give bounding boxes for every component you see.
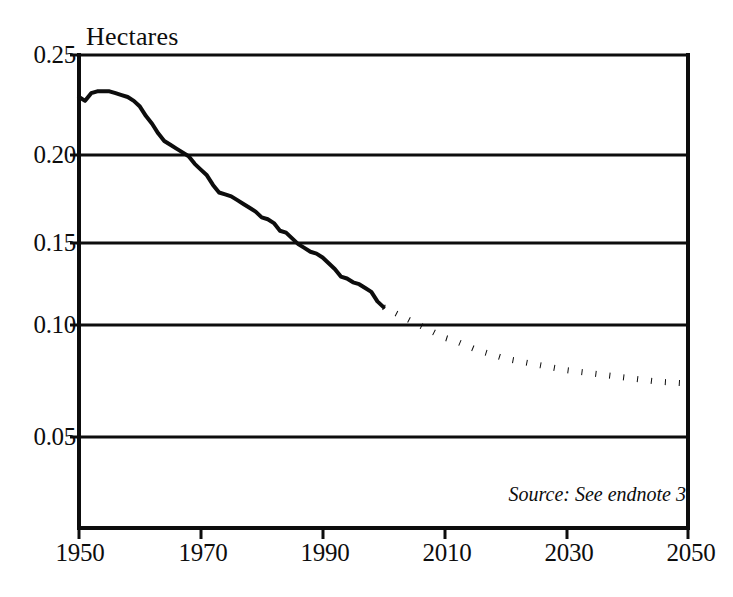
series-line-projected bbox=[384, 307, 689, 383]
chart-figure: Hectares 0.25 0.20 0.15 0.10 0.05 1950 1… bbox=[0, 0, 733, 597]
plot-area bbox=[0, 0, 733, 597]
gridlines bbox=[78, 55, 689, 437]
series-line-historical bbox=[79, 91, 384, 307]
axis-frame bbox=[78, 53, 689, 530]
